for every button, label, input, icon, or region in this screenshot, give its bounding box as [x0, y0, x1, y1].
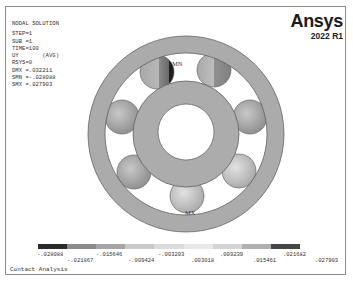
- legend-tick: -.028088: [37, 251, 63, 258]
- bearing-model[interactable]: MN MX: [0, 0, 353, 282]
- legend-tick: -.021867: [67, 257, 93, 264]
- legend-tick: -.009424: [128, 257, 154, 264]
- legend-band-2: [67, 244, 96, 249]
- analysis-title: Contact Analysis: [10, 266, 68, 273]
- legend-band-3: [96, 244, 125, 249]
- legend-band-4: [125, 244, 154, 249]
- legend-tick: -.015646: [96, 251, 122, 258]
- min-marker: MN: [172, 60, 183, 67]
- legend-band-7: [213, 244, 242, 249]
- legend-tick: -.003203: [158, 251, 184, 258]
- legend-tick: .003018: [191, 257, 214, 264]
- max-marker: MX: [185, 209, 196, 216]
- legend-tick: .027903: [315, 257, 338, 264]
- legend-band-1: [38, 244, 67, 249]
- legend-band-8: [242, 244, 271, 249]
- legend-tick: .009239: [220, 251, 243, 258]
- legend-band-6: [184, 244, 213, 249]
- legend-tick: .015461: [253, 257, 276, 264]
- legend-band-9: [271, 244, 300, 249]
- legend-band-5: [154, 244, 183, 249]
- contour-legend-bar: [38, 244, 300, 249]
- legend-tick: .021682: [283, 251, 306, 258]
